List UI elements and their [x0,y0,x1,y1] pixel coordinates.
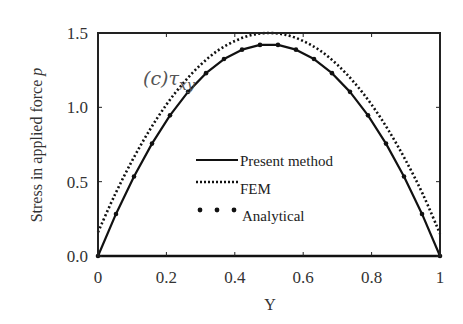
series-point-analytical [420,212,425,217]
x-tick-label: 0.8 [361,268,382,287]
y-axis-label-variable: p [28,68,46,77]
legend-label-analytical: Analytical [242,208,304,224]
y-axis-label: Stress in applied force p [28,68,46,223]
x-tick-label: 1 [436,268,445,287]
legend-label-present-method: Present method [240,153,333,169]
chart: 00.20.40.60.81 0.00.51.01.5 (c)τxy Prese… [0,0,463,324]
series-point-analytical [240,47,245,52]
series-point-analytical [402,174,407,179]
series-point-analytical [204,71,209,76]
series-point-analytical [150,141,155,146]
series-point-analytical [114,212,119,217]
annotation-prefix: (c)τ [143,67,179,89]
y-tick-label: 1.5 [67,24,88,43]
series-point-analytical [348,90,353,95]
x-tick-label: 0.2 [156,268,177,287]
y-axis-label-text: Stress in applied force [28,76,46,223]
x-tick-label: 0 [94,268,103,287]
annotation-subscript: xy [179,77,196,93]
chart-annotation: (c)τxy [143,67,196,93]
series-point-analytical [258,43,263,48]
series-point-analytical [276,43,281,48]
series-line-fem [98,33,440,234]
x-tick-label: 0.4 [224,268,246,287]
legend: Present method FEM Analytical [196,153,333,224]
series-point-analytical [330,71,335,76]
legend-marker-analytical-1 [198,208,203,213]
series-point-analytical [384,141,389,146]
series-point-analytical [366,113,371,118]
y-tick-label: 0.0 [67,247,88,266]
series-point-analytical [294,47,299,52]
series-point-analytical [222,57,227,62]
x-tick-label: 0.6 [293,268,314,287]
y-tick-label: 1.0 [67,98,88,117]
series-point-analytical [312,57,317,62]
legend-marker-analytical-2 [215,208,220,213]
series-point-analytical [132,174,137,179]
y-tick-label: 0.5 [67,173,88,192]
legend-marker-analytical-3 [232,208,237,213]
series-point-analytical [168,113,173,118]
x-axis-label: Y [264,296,276,313]
legend-label-fem: FEM [240,181,271,197]
y-ticks: 0.00.51.01.5 [67,24,440,266]
